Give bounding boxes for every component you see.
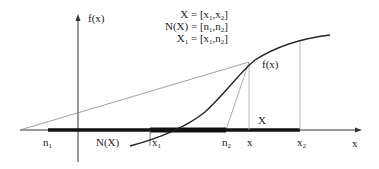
legend: X = [x1,x2] N(X) = [n1,n2] X1 = [x1,n2] xyxy=(165,8,228,46)
NX-label: N(X) xyxy=(96,136,120,149)
interval-newton-diagram: f(x) x X = [x1,x2] N(X) = [n1,n2] X1 = [… xyxy=(0,0,379,169)
y-axis-label: f(x) xyxy=(88,12,105,25)
legend-row-3: X1 = [x1,n2] xyxy=(177,32,228,46)
x2-label: x2 xyxy=(297,136,307,150)
x-axis-arrow-icon xyxy=(355,128,362,133)
X-interval-label: X xyxy=(258,114,266,126)
fx-label: f(x) xyxy=(262,58,279,71)
n1-label: n1 xyxy=(43,136,53,150)
x-point-label: x xyxy=(247,136,253,148)
x1-label: x1 xyxy=(152,136,162,150)
n2-label: n2 xyxy=(222,136,232,150)
y-axis-arrow-icon xyxy=(76,14,81,21)
secant-line xyxy=(20,62,249,130)
x-axis-label: x xyxy=(352,137,358,149)
tangent-line xyxy=(226,62,249,130)
